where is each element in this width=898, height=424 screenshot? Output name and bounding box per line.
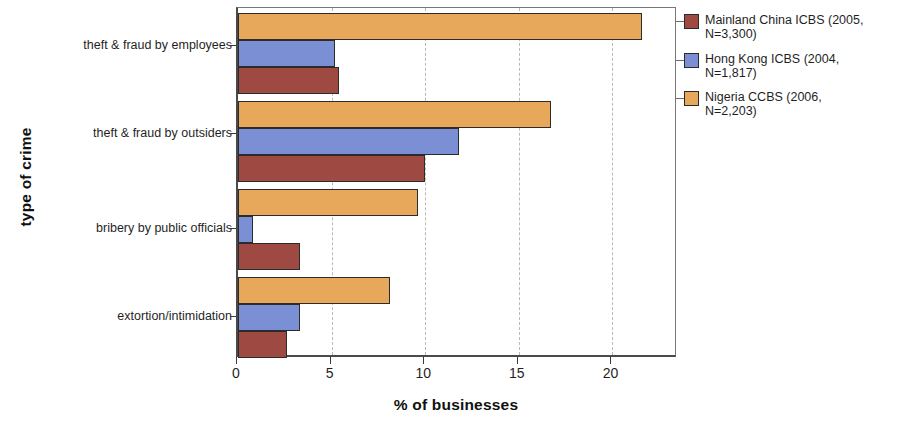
- legend-item-0[interactable]: Mainland China ICBS (2005, N=3,300): [684, 13, 863, 41]
- bar-theft-fraud-by-employees-series-0: [238, 67, 339, 94]
- legend-swatch-icon-2: [684, 91, 699, 106]
- x-axis-tick-label-15: 15: [497, 365, 537, 381]
- x-axis-tick-label-10: 10: [403, 365, 443, 381]
- legend-label-1: Hong Kong ICBS (2004, N=1,817): [705, 52, 839, 80]
- legend-item-1[interactable]: Hong Kong ICBS (2004, N=1,817): [684, 52, 839, 80]
- bar-theft-fraud-by-outsiders-series-0: [238, 155, 425, 182]
- y-axis-label-0: theft & fraud by employees: [22, 38, 232, 52]
- bar-theft-fraud-by-employees-series-1: [238, 40, 335, 67]
- plot-area: [236, 7, 676, 357]
- gridline-15: [519, 8, 520, 355]
- bar-theft-fraud-by-outsiders-series-1: [238, 128, 459, 155]
- legend: Mainland China ICBS (2005, N=3,300)Hong …: [676, 7, 898, 117]
- y-axis-label-1: theft & fraud by outsiders: [22, 126, 232, 140]
- y-axis-category-labels: theft & fraud by employees theft & fraud…: [20, 0, 232, 360]
- x-axis-tick-20: [610, 357, 611, 364]
- bar-chart: type of crime theft & fraud by employees…: [0, 0, 898, 424]
- legend-connector-2: [676, 98, 684, 99]
- bar-theft-fraud-by-outsiders-series-2: [238, 101, 551, 128]
- x-axis-title: % of businesses: [236, 396, 676, 414]
- legend-swatch-icon-0: [684, 14, 699, 29]
- legend-swatch-icon-1: [684, 53, 699, 68]
- x-axis-tick-5: [330, 357, 331, 364]
- legend-item-2[interactable]: Nigeria CCBS (2006, N=2,203): [684, 90, 822, 118]
- y-axis-label-2: bribery by public officials: [22, 221, 232, 235]
- y-axis-label-3: extortion/intimidation: [22, 309, 232, 323]
- bar-bribery-by-public-officials-series-2: [238, 189, 418, 216]
- x-axis-tick-0: [236, 357, 237, 364]
- x-axis-tick-10: [423, 357, 424, 364]
- legend-label-2: Nigeria CCBS (2006, N=2,203): [705, 90, 822, 118]
- bar-theft-fraud-by-employees-series-2: [238, 13, 642, 40]
- legend-connector-1: [676, 60, 684, 61]
- gridline-20: [612, 8, 613, 355]
- x-axis-tick-label-0: 0: [216, 365, 256, 381]
- bar-extortion-intimidation-series-1: [238, 304, 300, 331]
- legend-label-0: Mainland China ICBS (2005, N=3,300): [705, 13, 863, 41]
- x-axis-tick-label-20: 20: [590, 365, 630, 381]
- bar-extortion-intimidation-series-0: [238, 331, 287, 358]
- x-axis-ticks: 05101520: [236, 357, 676, 387]
- bar-extortion-intimidation-series-2: [238, 277, 390, 304]
- bar-bribery-by-public-officials-series-1: [238, 216, 253, 243]
- x-axis-tick-label-5: 5: [310, 365, 350, 381]
- legend-connector-0: [676, 21, 684, 22]
- gridline-10: [425, 8, 426, 355]
- x-axis-tick-15: [517, 357, 518, 364]
- bar-bribery-by-public-officials-series-0: [238, 243, 300, 270]
